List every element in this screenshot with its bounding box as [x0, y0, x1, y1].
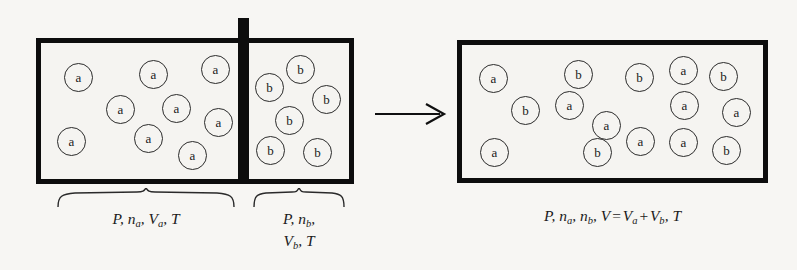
molecule-b: b [312, 85, 341, 114]
molecule-a: a [178, 141, 207, 170]
caption-a-P: P [112, 210, 119, 227]
caption-a-T: T [171, 210, 180, 227]
molecule-b: b [625, 63, 654, 92]
caption-mix-equals: = [610, 207, 622, 224]
caption-a-comma3: , [163, 210, 171, 227]
molecule-b: b [286, 55, 315, 84]
caption-b-n: n [298, 210, 306, 227]
molecule-a: a [57, 127, 86, 156]
caption-chamber-mixed: P, na, nb, V=Va+Vb, T [457, 205, 768, 227]
molecule-a: a [626, 127, 655, 156]
caption-b-T: T [306, 232, 315, 249]
molecule-b: b [583, 138, 612, 167]
molecule-b: b [709, 62, 738, 91]
caption-mix-n2-sub: b [588, 215, 593, 226]
caption-a-comma1: , [120, 210, 128, 227]
molecule-a: a [204, 108, 233, 137]
caption-b-line2: Vb, T [252, 230, 346, 252]
caption-mix-Vb: V [650, 207, 659, 224]
caption-b-V: V [283, 232, 292, 249]
caption-a-V: V [148, 210, 157, 227]
caption-a-V-sub: a [158, 218, 163, 229]
molecule-a: a [134, 124, 163, 153]
molecule-b: b [275, 106, 304, 135]
molecule-a: a [592, 111, 621, 140]
brace-chamber-b [252, 188, 346, 208]
caption-mix-comma3: , [593, 207, 601, 224]
process-arrow [374, 100, 452, 128]
molecule-b: b [564, 60, 593, 89]
caption-a-n-sub: a [135, 218, 140, 229]
caption-mix-n1: n [559, 207, 567, 224]
molecule-a: a [201, 55, 230, 84]
molecule-b: b [255, 73, 284, 102]
caption-b-V-sub: b [293, 240, 298, 251]
caption-mix-V: V [601, 207, 610, 224]
caption-mix-n1-sub: a [567, 215, 572, 226]
molecule-a: a [555, 91, 584, 120]
brace-chamber-a [55, 188, 237, 208]
caption-chamber-b: P, nb, Vb, T [252, 208, 346, 253]
caption-b-n-sub: b [306, 218, 311, 229]
molecule-a: a [670, 91, 699, 120]
molecule-a: a [479, 64, 508, 93]
caption-chamber-a: P, na, Va, T [55, 208, 237, 230]
caption-mix-comma2: , [572, 207, 580, 224]
molecule-a: a [106, 95, 135, 124]
molecule-a: a [162, 94, 191, 123]
molecule-a: a [139, 60, 168, 89]
caption-mix-n2: n [580, 207, 588, 224]
caption-b-comma2: , [311, 210, 315, 227]
caption-b-comma3: , [298, 232, 306, 249]
molecule-b: b [712, 136, 741, 165]
caption-mix-Va-sub: a [632, 215, 637, 226]
caption-b-comma1: , [290, 210, 298, 227]
gas-mixing-figure: a a a a a a a a a b b b b b b P, na, Va,… [0, 0, 797, 270]
partition-divider [238, 18, 249, 184]
caption-mix-Vb-sub: b [659, 215, 664, 226]
caption-mix-Va: V [623, 207, 632, 224]
molecule-a: a [480, 138, 509, 167]
caption-mix-plus: + [637, 207, 649, 224]
molecule-a: a [669, 128, 698, 157]
molecule-b: b [303, 138, 332, 167]
molecule-a: a [669, 56, 698, 85]
caption-b-line1: P, nb, [252, 208, 346, 230]
molecule-b: b [511, 96, 540, 125]
caption-mix-T: T [672, 207, 681, 224]
molecule-a: a [64, 63, 93, 92]
molecule-a: a [722, 98, 751, 127]
molecule-b: b [256, 136, 285, 165]
